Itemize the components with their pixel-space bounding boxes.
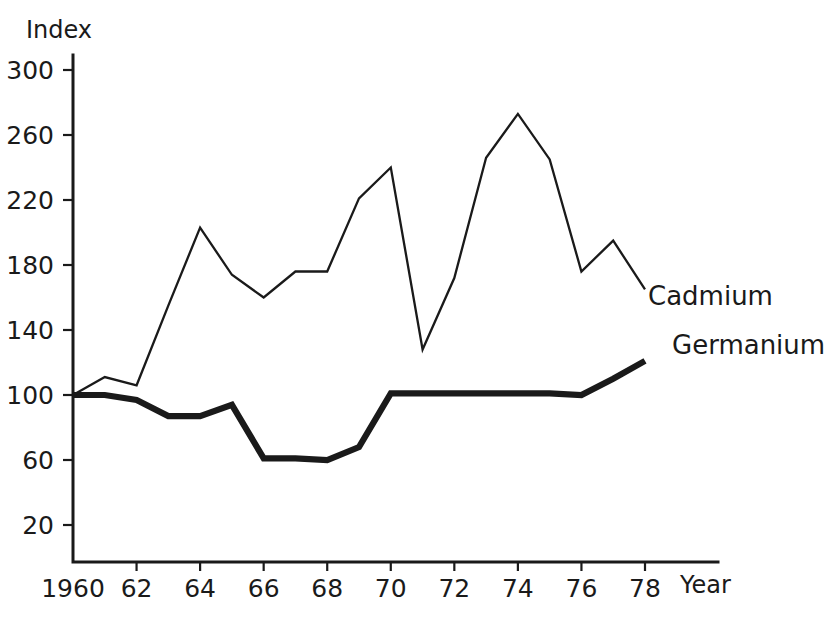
series-label-germanium: Germanium: [672, 332, 825, 358]
axes-group: [63, 55, 718, 571]
x-tick-label: 78: [600, 576, 690, 601]
y-tick-label: 180: [0, 253, 54, 278]
y-tick-label: 140: [0, 318, 54, 343]
y-tick-label: 300: [0, 58, 54, 83]
series-label-cadmium: Cadmium: [648, 283, 773, 309]
y-tick-label: 100: [0, 383, 54, 408]
axis-lines: [73, 55, 718, 562]
y-tick-label: 220: [0, 188, 54, 213]
y-tick-label: 260: [0, 123, 54, 148]
y-axis-title: Index: [26, 18, 92, 42]
series-line-cadmium: [73, 114, 645, 395]
series-group: [73, 114, 645, 460]
y-tick-label: 60: [0, 448, 54, 473]
series-line-germanium: [73, 361, 645, 460]
y-tick-label: 20: [0, 513, 54, 538]
